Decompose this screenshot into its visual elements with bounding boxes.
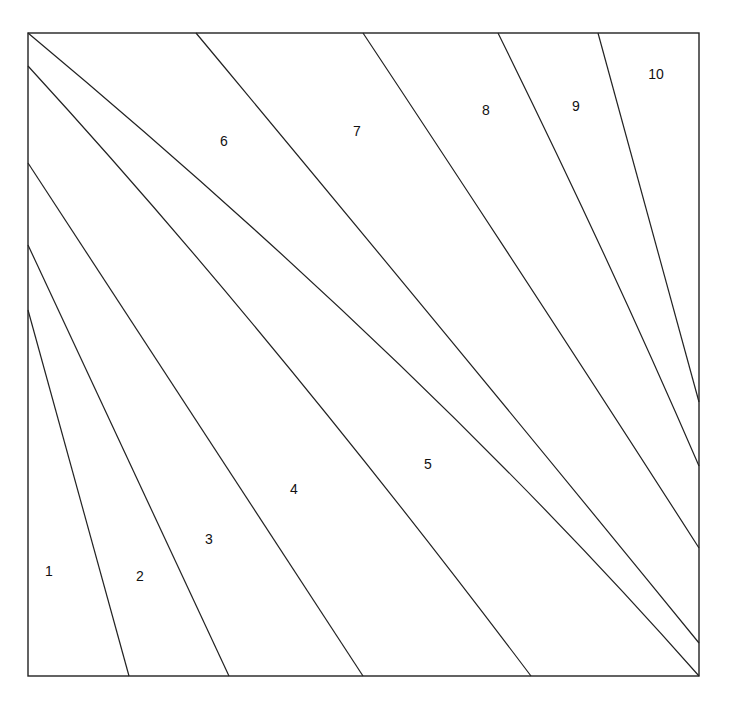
region-label-1: 1 <box>45 563 53 579</box>
divider-line-1 <box>28 310 129 676</box>
diagram-frame <box>28 33 699 676</box>
region-label-3: 3 <box>205 531 213 547</box>
divider-line-9 <box>598 33 699 402</box>
divider-line-3 <box>28 163 363 676</box>
divider-line-7 <box>363 33 699 548</box>
divider-line-8 <box>498 33 699 466</box>
region-label-9: 9 <box>572 98 580 114</box>
region-label-6: 6 <box>220 133 228 149</box>
region-label-4: 4 <box>290 481 298 497</box>
divider-line-2 <box>28 245 229 676</box>
region-label-2: 2 <box>136 568 144 584</box>
partition-diagram: 12345678910 <box>0 0 737 712</box>
region-labels: 12345678910 <box>45 66 664 584</box>
region-label-5: 5 <box>424 456 432 472</box>
region-label-8: 8 <box>482 102 490 118</box>
region-label-10: 10 <box>648 66 664 82</box>
divider-line-5 <box>28 33 699 676</box>
region-label-7: 7 <box>353 123 361 139</box>
divider-lines <box>28 33 699 676</box>
